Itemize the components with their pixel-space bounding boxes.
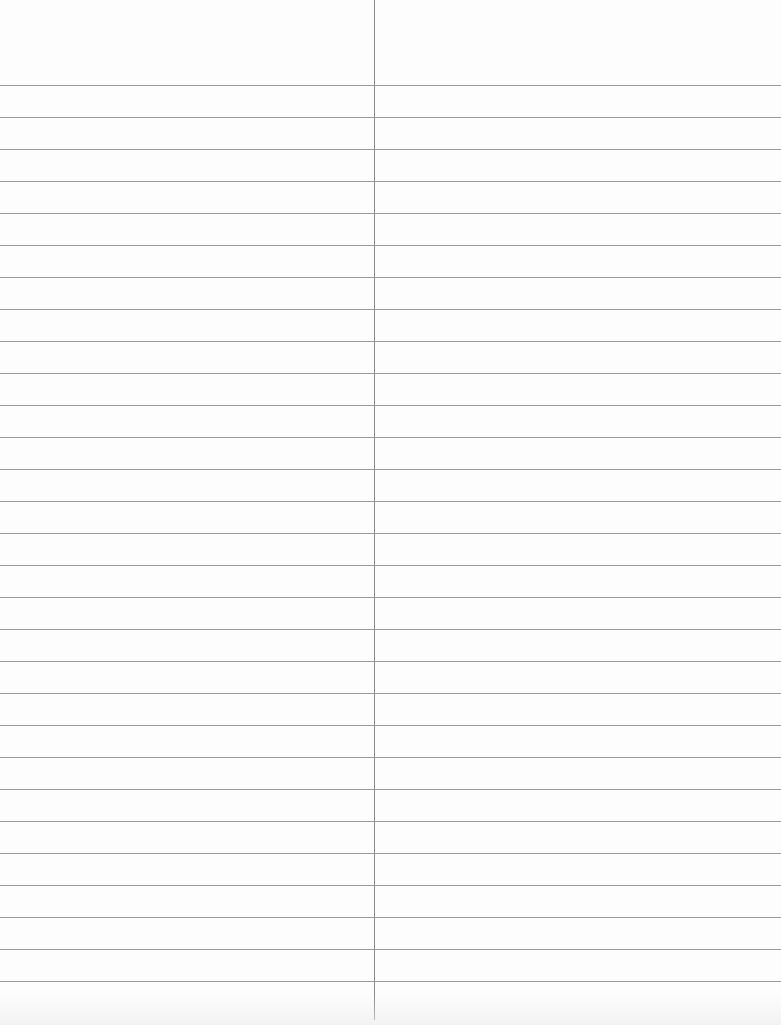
ruled-line [0,501,781,502]
ruled-line [0,405,781,406]
ruled-line [0,373,781,374]
ruled-line [0,661,781,662]
ruled-line [0,341,781,342]
ruled-line [0,821,781,822]
ruled-line [0,85,781,86]
column-divider [374,0,375,1020]
ruled-line [0,789,781,790]
ruled-line [0,533,781,534]
ruled-line [0,693,781,694]
ruled-line [0,213,781,214]
ruled-line [0,437,781,438]
ruled-line [0,181,781,182]
ruled-line [0,981,781,982]
ruled-line [0,757,781,758]
ruled-line [0,949,781,950]
ruled-line [0,309,781,310]
ruled-line [0,917,781,918]
ruled-line [0,245,781,246]
ruled-line [0,885,781,886]
ruled-line [0,597,781,598]
ruled-line [0,469,781,470]
ruled-line [0,565,781,566]
page-bottom-shadow [0,995,781,1025]
ruled-line [0,117,781,118]
ruled-line [0,149,781,150]
ruled-line [0,277,781,278]
ruled-line [0,725,781,726]
ruled-line [0,629,781,630]
ruled-line [0,853,781,854]
